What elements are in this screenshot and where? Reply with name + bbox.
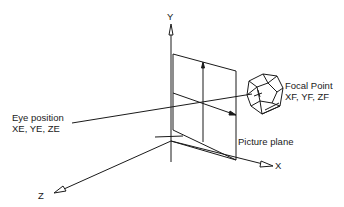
- perspective-diagram: [0, 0, 344, 207]
- projection-line: [171, 141, 236, 160]
- plane-horizontal-arrowhead: [229, 111, 236, 115]
- eye-position-title: Eye position: [12, 112, 64, 123]
- plane-vertical-arrowhead: [202, 62, 205, 68]
- focal-point-label: Focal Point XF, YF, ZF: [285, 80, 333, 102]
- z-axis-label: Z: [38, 190, 44, 201]
- z-axis: [64, 141, 171, 189]
- y-axis-label: Y: [167, 11, 173, 22]
- origin-tick: [155, 136, 183, 137]
- focal-point-title: Focal Point: [285, 80, 333, 91]
- focal-point-object: [247, 74, 283, 114]
- eye-position-coords: XE, YE, ZE: [12, 123, 64, 134]
- x-axis-arrowhead: [260, 161, 273, 167]
- focal-point-coords: XF, YF, ZF: [285, 91, 333, 102]
- sight-line: [72, 94, 252, 123]
- plane-horizontal-line: [173, 93, 236, 115]
- picture-plane-label: Picture plane: [238, 136, 293, 147]
- x-axis-label: X: [275, 160, 281, 171]
- z-axis-arrowhead: [54, 186, 66, 193]
- eye-position-label: Eye position XE, YE, ZE: [12, 112, 64, 134]
- y-axis-arrowhead: [169, 24, 173, 35]
